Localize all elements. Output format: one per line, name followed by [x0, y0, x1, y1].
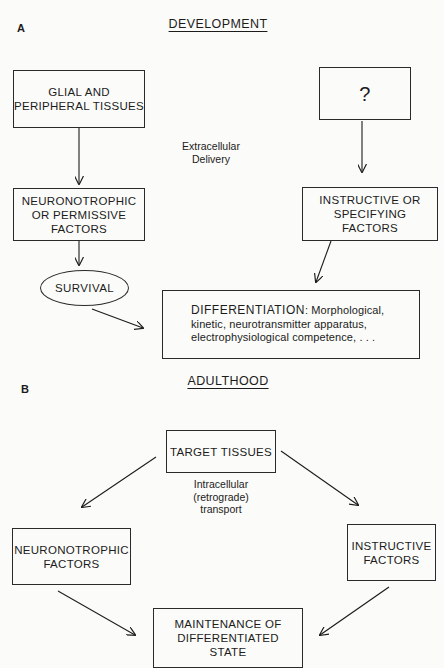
- glial-peripheral-tissues-box: GLIAL AND PERIPHERAL TISSUES: [13, 70, 145, 128]
- box-line: GLIAL AND: [48, 85, 110, 99]
- box-line: FACTORS: [43, 557, 99, 571]
- arrow-instructive-to-maintenance: [320, 587, 389, 635]
- neuronotrophic-permissive-factors-box: NEURONOTROPHIC OR PERMISSIVE FACTORS: [13, 188, 145, 241]
- instructive-factors-box: INSTRUCTIVE FACTORS: [347, 524, 436, 581]
- panel-a-title: DEVELOPMENT: [169, 17, 268, 31]
- note-line: Extracellular: [182, 140, 240, 153]
- note-line: (retrograde): [193, 491, 248, 504]
- note-line: Intracellular: [193, 478, 248, 491]
- target-tissues-box: TARGET TISSUES: [166, 430, 276, 473]
- box-line: STATE: [210, 645, 247, 659]
- box-line: NEURONOTROPHIC: [14, 543, 129, 557]
- box-line: INSTRUCTIVE OR: [319, 193, 420, 207]
- box-line: FACTORS: [342, 221, 398, 235]
- box-line: FACTORS: [51, 222, 107, 236]
- box-line: PERIPHERAL TISSUES: [14, 99, 144, 113]
- panel-b-label: B: [21, 383, 29, 395]
- retrograde-transport-note: Intracellular (retrograde) transport: [193, 478, 248, 516]
- box-line: INSTRUCTIVE: [352, 539, 432, 553]
- differentiation-line-1-rest: : Morphological,: [305, 304, 384, 316]
- survival-label: SURVIVAL: [55, 282, 114, 294]
- differentiation-line-1: DIFFERENTIATION: Morphological,: [191, 304, 384, 318]
- box-line: FACTORS: [363, 553, 419, 567]
- box-line: TARGET TISSUES: [170, 445, 272, 459]
- arrow-target-to-neuronotrophic: [82, 457, 156, 507]
- panel-b-title: ADULTHOOD: [187, 374, 268, 388]
- box-line: MAINTENANCE OF: [174, 617, 281, 631]
- note-line: Delivery: [182, 153, 240, 166]
- box-line: NEURONOTROPHIC: [22, 194, 137, 208]
- survival-ellipse: SURVIVAL: [40, 270, 129, 306]
- arrow-survival-to-differentiation: [92, 309, 143, 328]
- differentiation-lead: DIFFERENTIATION: [191, 303, 305, 317]
- arrow-neuronotrophic-to-maintenance: [58, 591, 135, 635]
- panel-a-label: A: [17, 22, 25, 34]
- differentiation-box: DIFFERENTIATION: Morphological, kinetic,…: [162, 290, 420, 359]
- extracellular-delivery-note: Extracellular Delivery: [182, 140, 240, 165]
- maintenance-differentiated-state-box: MAINTENANCE OF DIFFERENTIATED STATE: [153, 608, 303, 668]
- unknown-source-box: ?: [319, 67, 411, 120]
- box-line: DIFFERENTIATED: [177, 631, 279, 645]
- box-line: SPECIFYING: [334, 207, 407, 221]
- question-mark: ?: [359, 87, 370, 101]
- differentiation-line-3: electrophysiological competence, . . .: [191, 331, 375, 345]
- arrow-target-to-instructive: [281, 451, 358, 505]
- note-line: transport: [193, 503, 248, 516]
- instructive-specifying-factors-box: INSTRUCTIVE OR SPECIFYING FACTORS: [302, 187, 438, 241]
- arrow-instructive-to-differentiation: [316, 241, 331, 282]
- differentiation-line-2: kinetic, neurotransmitter apparatus,: [191, 318, 367, 332]
- box-line: OR PERMISSIVE: [32, 208, 127, 222]
- neuronotrophic-factors-box: NEURONOTROPHIC FACTORS: [12, 528, 131, 585]
